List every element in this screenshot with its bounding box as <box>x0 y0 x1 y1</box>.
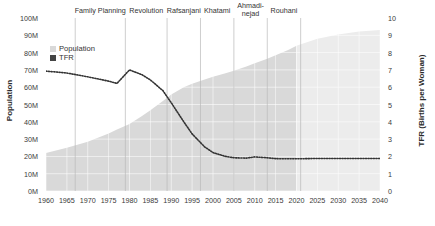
era-label: Family Planning <box>75 7 126 15</box>
y-axis-left-tick-label: 40M <box>10 118 38 127</box>
y-axis-right-tick-label: 4 <box>388 118 410 127</box>
population-tfr-chart: Population TFR (Births per Woman) 0M10M2… <box>0 0 435 226</box>
era-label: Rouhani <box>271 7 298 15</box>
y-axis-right-tick-label: 3 <box>388 135 410 144</box>
y-axis-right-tick-label: 2 <box>388 152 410 161</box>
y-axis-right-tick-label: 5 <box>388 101 410 110</box>
legend-item[interactable]: Population <box>50 44 95 53</box>
y-axis-right-tick-label: 10 <box>388 14 410 23</box>
legend-swatch-icon <box>50 46 56 52</box>
y-axis-left-tick-label: 90M <box>10 31 38 40</box>
y-axis-left-tick-label: 10M <box>10 170 38 179</box>
y-axis-left-tick-label: 80M <box>10 49 38 58</box>
legend-label: TFR <box>59 53 74 62</box>
era-label-line: nejad <box>237 10 264 18</box>
y-axis-right-tick-label: 6 <box>388 83 410 92</box>
era-label: Khatami <box>204 7 230 15</box>
y-axis-left-tick-label: 20M <box>10 152 38 161</box>
y-axis-left-tick-label: 100M <box>10 14 38 23</box>
y-axis-right-tick-label: 8 <box>388 49 410 58</box>
era-label: Revolution <box>129 7 163 15</box>
y-axis-left-tick-label: 50M <box>10 101 38 110</box>
y-axis-right-tick-label: 9 <box>388 31 410 40</box>
x-axis-tick-label: 2040 <box>363 196 397 205</box>
y-axis-left-tick-label: 60M <box>10 83 38 92</box>
y-axis-left-tick-label: 0M <box>10 187 38 196</box>
y-axis-left-tick-label: 70M <box>10 66 38 75</box>
era-label: Rafsanjani <box>167 7 201 15</box>
y-axis-right-tick-label: 0 <box>388 187 410 196</box>
legend-label: Population <box>59 44 95 53</box>
legend-item[interactable]: TFR <box>50 53 95 62</box>
y-axis-right-tick-label: 7 <box>388 66 410 75</box>
plot-area: Family PlanningRevolutionRafsanjaniKhata… <box>46 18 380 191</box>
plot-svg <box>46 18 380 191</box>
chart-legend: PopulationTFR <box>50 44 95 62</box>
y-axis-right-tick-label: 1 <box>388 170 410 179</box>
y-axis-left-tick-label: 30M <box>10 135 38 144</box>
legend-swatch-icon <box>50 55 56 61</box>
era-label: Ahmadi-nejad <box>237 2 264 19</box>
y-axis-right-title: TFR (Births per Woman) <box>417 46 426 156</box>
